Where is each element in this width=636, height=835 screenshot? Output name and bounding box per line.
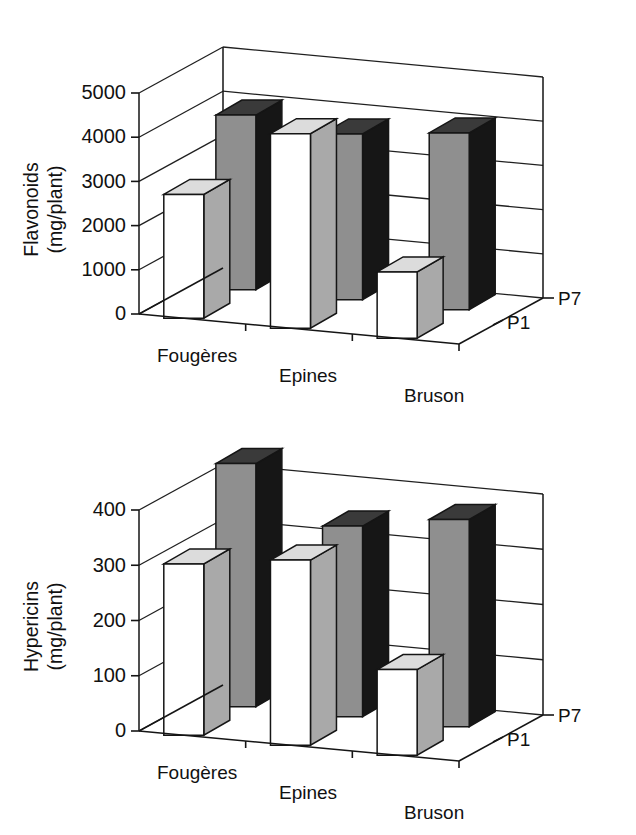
hypericins-value-tick-label: 0 [115, 719, 126, 741]
flavonoids-chart-svg: 010002000300040005000FougèresEpinesBruso… [0, 0, 636, 417]
hypericins-value-tick-label: 200 [93, 609, 126, 631]
flavonoids-leftwall-gridline [139, 91, 223, 137]
hypericins-bar-side-face [469, 504, 495, 726]
hypericins-chart-group: 0100200300400FougèresEpinesBrusonP7P1Hyp… [20, 449, 581, 823]
hypericins-bar-side-face [417, 655, 443, 756]
hypericins-bar-P1-1 [270, 545, 336, 745]
flavonoids-category-label-2: Bruson [404, 385, 464, 406]
flavonoids-bars-group [164, 100, 495, 338]
flavonoids-value-tick-label: 4000 [82, 125, 127, 147]
flavonoids-value-axis-group: 010002000300040005000 [82, 81, 140, 324]
hypericins-category-label-0: Fougères [157, 762, 237, 783]
flavonoids-svg-wrap: 010002000300040005000FougèresEpinesBruso… [0, 0, 636, 417]
flavonoids-leftwall-gridline [139, 135, 223, 181]
flavonoids-value-tick-label: 2000 [82, 214, 127, 236]
flavonoids-category-label-0: Fougères [157, 345, 237, 366]
hypericins-chart-svg: 0100200300400FougèresEpinesBrusonP7P1Hyp… [0, 417, 636, 834]
flavonoids-bar-front-face [377, 272, 417, 338]
hypericins-depth-labels: P7P1 [507, 705, 581, 750]
hypericins-value-axis-title: Hypericins(mg/plant) [20, 581, 66, 672]
hypericins-bar-front-face [270, 560, 310, 745]
flavonoids-value-axis-title: Flavonoids(mg/plant) [20, 162, 66, 257]
hypericins-category-label-2: Bruson [404, 802, 464, 823]
flavonoids-chart-group: 010002000300040005000FougèresEpinesBruso… [20, 47, 581, 406]
flavonoids-value-tick-label: 1000 [82, 258, 127, 280]
hypericins-depth-label-p1: P1 [507, 729, 530, 750]
hypericins-svg-wrap: 0100200300400FougèresEpinesBrusonP7P1Hyp… [0, 417, 636, 834]
flavonoids-leftwall-gridline [139, 47, 223, 93]
flavonoids-depth-label-p7: P7 [558, 288, 581, 309]
hypericins-category-label-1: Epines [279, 782, 337, 803]
flavonoids-bar-side-face [310, 119, 336, 328]
flavonoids-bar-front-face [270, 134, 310, 328]
hypericins-value-axis-title-line2: (mg/plant) [44, 583, 66, 671]
hypericins-bar-P1-0 [164, 549, 230, 735]
hypericins-depth-tick-p1 [493, 737, 503, 742]
flavonoids-bar-P1-0 [164, 179, 230, 318]
hypericins-bar-front-face [377, 670, 417, 756]
flavonoids-bar-front-face [164, 194, 204, 318]
flavonoids-value-tick-label: 0 [115, 302, 126, 324]
flavonoids-category-labels: FougèresEpinesBruson [157, 345, 464, 406]
hypericins-bar-side-face [204, 549, 230, 735]
hypericins-chart-panel: 0100200300400FougèresEpinesBrusonP7P1Hyp… [0, 417, 636, 834]
flavonoids-value-tick-label: 3000 [82, 170, 127, 192]
flavonoids-depth-tick-p1 [493, 320, 503, 325]
hypericins-value-tick-label: 300 [93, 554, 126, 576]
flavonoids-depth-label-p1: P1 [507, 312, 530, 333]
flavonoids-bar-side-face [469, 118, 495, 310]
hypericins-value-axis-title-line1: Hypericins [20, 581, 42, 672]
flavonoids-chart-panel: 010002000300040005000FougèresEpinesBruso… [0, 0, 636, 417]
flavonoids-bar-P1-2 [377, 257, 443, 338]
hypericins-leftwall-gridline [139, 464, 223, 510]
hypericins-bar-front-face [164, 564, 204, 735]
hypericins-bar-P1-2 [377, 655, 443, 756]
hypericins-value-tick-label: 100 [93, 664, 126, 686]
flavonoids-bar-P1-1 [270, 119, 336, 328]
flavonoids-category-label-1: Epines [279, 365, 337, 386]
flavonoids-depth-labels: P7P1 [507, 288, 581, 333]
hypericins-value-tick-label: 400 [93, 498, 126, 520]
flavonoids-value-axis-title-line1: Flavonoids [20, 162, 42, 257]
hypericins-depth-label-p7: P7 [558, 705, 581, 726]
flavonoids-bar-side-face [204, 179, 230, 318]
hypericins-bar-side-face [310, 545, 336, 745]
hypericins-category-labels: FougèresEpinesBruson [157, 762, 464, 823]
flavonoids-value-axis-title-line2: (mg/plant) [44, 166, 66, 254]
hypericins-value-axis-group: 0100200300400 [93, 498, 139, 741]
hypericins-bars-group [164, 449, 495, 756]
flavonoids-backwall-gridline [223, 47, 543, 77]
flavonoids-value-tick-label: 5000 [82, 81, 127, 103]
